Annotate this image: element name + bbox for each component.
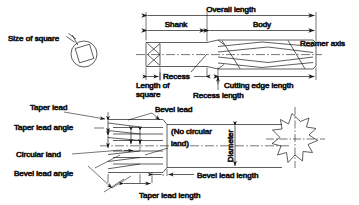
bevel-lead-angle-leader-b bbox=[88, 166, 112, 188]
taper-lead-angle-label: Taper lead angle bbox=[14, 123, 74, 132]
taper-relief-5 bbox=[108, 158, 140, 162]
square-detail-inscribed-square bbox=[75, 44, 94, 63]
recess-label: Recess bbox=[163, 72, 190, 81]
square-detail-dimension-line bbox=[72, 35, 78, 45]
bevel-lead-leader bbox=[128, 113, 152, 120]
bevel-lead-label: Bevel lead bbox=[155, 105, 192, 114]
length-of-square-label-line2: square bbox=[136, 90, 161, 99]
bevel-lead-angle-label: Bevel lead angle bbox=[14, 169, 74, 178]
taper-relief-2 bbox=[108, 131, 140, 135]
dimension-length-of-square bbox=[148, 73, 161, 81]
bevel-lead-angle-leader-a bbox=[95, 155, 120, 168]
no-circular-land-label-line2: land) bbox=[171, 139, 189, 148]
bevel-lead-angle-leader-c bbox=[112, 176, 131, 188]
taper-relief-3 bbox=[108, 138, 140, 141]
taper-lead-length-label: Taper lead length bbox=[139, 191, 200, 200]
recess-leader-line bbox=[191, 54, 207, 72]
cutting-edge-length-label: Cutting edge length bbox=[224, 81, 293, 90]
reamer-nomenclature-svg: Size of square Reamer axis bbox=[0, 0, 359, 205]
taper-relief-4 bbox=[108, 164, 140, 169]
length-of-square-label-line1: Length of bbox=[136, 81, 170, 90]
shank-label: Shank bbox=[165, 20, 189, 29]
square-detail-circle bbox=[71, 41, 97, 67]
diagram-canvas: Size of square Reamer axis bbox=[0, 0, 359, 205]
no-circular-land-leader bbox=[145, 148, 168, 155]
taper-relief-6 bbox=[108, 151, 140, 155]
body-label: Body bbox=[253, 20, 271, 29]
flute-line-2 bbox=[218, 47, 313, 53]
bevel-lead-length-label: Bevel lead length bbox=[197, 171, 258, 180]
dimension-recess bbox=[191, 54, 207, 77]
size-of-square-detail bbox=[67, 34, 98, 68]
circular-land-label: Circular land bbox=[16, 150, 61, 159]
circular-land-leader bbox=[72, 150, 122, 154]
no-circular-land-label-line1: (No circular bbox=[171, 127, 212, 136]
neck-top-taper bbox=[207, 40, 218, 43]
taper-lead-label: Taper lead bbox=[30, 103, 67, 112]
cutting-edge-chamfer-bottom bbox=[218, 65, 224, 70]
diameter-label: Diameter bbox=[226, 129, 235, 162]
flute-line-4 bbox=[218, 63, 313, 68]
square-detail-leader-2 bbox=[69, 34, 77, 40]
section-view bbox=[266, 107, 325, 168]
bevel-lead-leader-arrow bbox=[152, 113, 160, 120]
recess-length-label: Recess length bbox=[193, 91, 244, 100]
flute-line-1 bbox=[218, 42, 313, 47]
taper-lead-leader bbox=[64, 112, 105, 119]
neck-bottom-taper bbox=[207, 67, 218, 70]
size-of-square-label: Size of square bbox=[8, 34, 60, 43]
overall-length-label: Overall length bbox=[206, 5, 255, 14]
bevel-lead-angle-leader-d bbox=[104, 179, 124, 192]
reamer-axis-label: Reamer axis bbox=[300, 39, 345, 48]
taper-relief-1 bbox=[108, 123, 140, 127]
